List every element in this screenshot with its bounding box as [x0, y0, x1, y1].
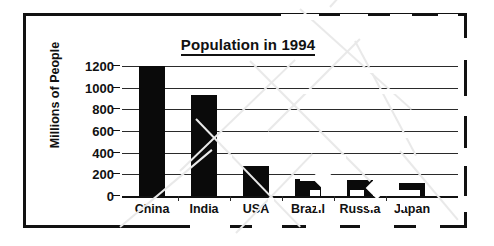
axis-baseline [122, 196, 458, 198]
y-axis-title: Millions of People [48, 30, 62, 160]
plot-area: 1200 1000 800 600 400 200 0 [122, 66, 458, 196]
bar-japan [399, 183, 425, 197]
ytick-dash-200 [113, 173, 120, 174]
ytick-label-800: 800 [54, 103, 114, 116]
ytick-label-1200: 1200 [54, 60, 114, 73]
ytick-dash-600 [113, 130, 120, 131]
chart-title: Population in 1994 [26, 36, 470, 53]
chart-figure: Population in 1994 Millions of People 12… [0, 0, 494, 246]
xtick-4 [334, 196, 335, 201]
xtick-2 [230, 196, 231, 201]
bar-brazil [295, 179, 321, 196]
bar-series [122, 66, 458, 196]
xtick-5 [386, 196, 387, 201]
ytick-dash-0 [113, 195, 120, 196]
ytick-dash-800 [113, 108, 120, 109]
ytick-label-600: 600 [54, 125, 114, 138]
ytick-label-0: 0 [54, 190, 114, 203]
ytick-dash-400 [113, 152, 120, 153]
chart-frame: Population in 1994 Millions of People 12… [23, 13, 467, 228]
chart-title-text: Population in 1994 [181, 36, 315, 56]
ytick-dash-1200 [113, 65, 120, 66]
ytick-dash-1000 [113, 87, 120, 88]
xlabel-japan: Japan [377, 202, 447, 216]
ytick-label-400: 400 [54, 146, 114, 159]
ytick-label-200: 200 [54, 168, 114, 181]
ytick-label-1000: 1000 [54, 81, 114, 94]
bar-russia [347, 180, 373, 196]
xtick-1 [178, 196, 179, 201]
bar-usa [243, 166, 269, 196]
xtick-3 [282, 196, 283, 201]
bar-china [139, 66, 165, 196]
bar-india [191, 95, 217, 196]
